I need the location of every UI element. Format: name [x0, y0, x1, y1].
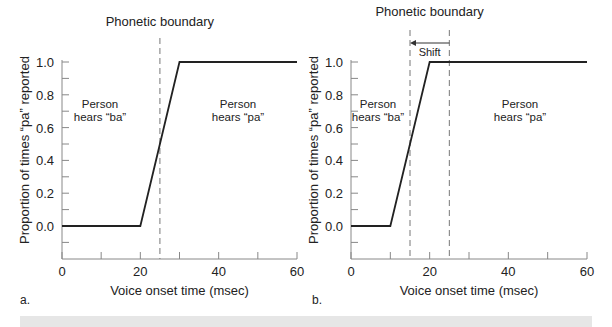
- y-tick-label: 0.6: [36, 121, 54, 136]
- chart-title: Phonetic boundary: [106, 14, 215, 29]
- region-annotation: Person: [220, 98, 256, 110]
- region-annotation: hears “pa”: [494, 111, 547, 123]
- y-tick-label: 0.2: [325, 186, 343, 201]
- y-tick-label: 0.8: [325, 88, 343, 103]
- y-tick-label: 1.0: [36, 55, 54, 70]
- y-tick-label: 1.0: [325, 55, 343, 70]
- region-annotation: hears “pa”: [212, 111, 265, 123]
- y-tick-label: 0.0: [36, 219, 54, 234]
- chart-title: Phonetic boundary: [375, 4, 484, 19]
- x-tick-label: 20: [133, 264, 147, 279]
- y-tick-label: 0.4: [325, 153, 343, 168]
- identification-curve: [351, 62, 587, 226]
- region-annotation: hears “ba”: [74, 111, 127, 123]
- x-tick-label: 0: [347, 264, 354, 279]
- x-tick-label: 60: [580, 264, 594, 279]
- region-annotation: Person: [360, 98, 396, 110]
- region-annotation: Person: [502, 98, 538, 110]
- panel-a: 0.00.20.40.60.81.00204060Voice onset tim…: [17, 14, 304, 307]
- arrowhead-left-icon: [410, 40, 416, 46]
- y-tick-label: 0.4: [36, 153, 54, 168]
- y-tick-label: 0.2: [36, 186, 54, 201]
- figure: 0.00.20.40.60.81.00204060Voice onset tim…: [0, 0, 612, 327]
- bottom-strip: [20, 316, 592, 327]
- y-tick-label: 0.6: [325, 121, 343, 136]
- y-axis-label: Proportion of times “pa” reported: [17, 56, 32, 244]
- x-tick-label: 60: [290, 264, 304, 279]
- y-tick-label: 0.8: [36, 88, 54, 103]
- x-tick-label: 20: [422, 264, 436, 279]
- x-tick-label: 40: [501, 264, 515, 279]
- panel-label: a.: [20, 293, 30, 307]
- region-annotation: hears “ba”: [352, 111, 405, 123]
- shift-label: Shift: [419, 46, 441, 58]
- identification-curve: [62, 62, 297, 226]
- x-tick-label: 0: [58, 264, 65, 279]
- y-tick-label: 0.0: [325, 219, 343, 234]
- x-tick-label: 40: [211, 264, 225, 279]
- panel-b: 0.00.20.40.60.81.00204060Voice onset tim…: [306, 4, 594, 307]
- x-axis-label: Voice onset time (msec): [110, 283, 249, 298]
- y-axis-label: Proportion of times “pa” reported: [306, 56, 321, 244]
- panel-label: b.: [312, 293, 322, 307]
- region-annotation: Person: [82, 98, 118, 110]
- x-axis-label: Voice onset time (msec): [400, 283, 539, 298]
